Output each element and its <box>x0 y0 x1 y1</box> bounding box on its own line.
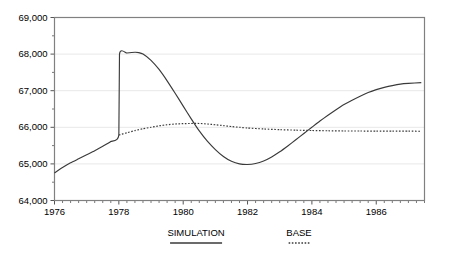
y-axis-label: 65,000 <box>18 158 47 169</box>
data-series <box>55 51 422 173</box>
x-axis-label: 1978 <box>108 206 129 217</box>
legend-label-simulation: SIMULATION <box>167 227 224 238</box>
y-axis-tick-labels: 64,00065,00066,00067,00068,00069,000 <box>18 12 47 206</box>
legend-label-base: BASE <box>286 227 311 238</box>
y-axis-label: 69,000 <box>18 12 47 23</box>
x-axis-label: 1984 <box>301 206 322 217</box>
x-axis-tick-labels: 197619781980198219841986 <box>44 206 387 217</box>
x-axis-label: 1986 <box>366 206 387 217</box>
chart-legend: SIMULATIONBASE <box>167 227 311 243</box>
x-axis-label: 1982 <box>237 206 258 217</box>
y-axis-label: 67,000 <box>18 85 47 96</box>
gridlines <box>55 54 425 164</box>
x-axis-label: 1980 <box>173 206 194 217</box>
chart-container: 64,00065,00066,00067,00068,00069,000 197… <box>0 0 450 257</box>
series-line-base <box>119 123 421 135</box>
series-line-simulation <box>55 51 422 173</box>
x-axis-label: 1976 <box>44 206 65 217</box>
x-axis-ticks <box>55 201 425 205</box>
line-chart: 64,00065,00066,00067,00068,00069,000 197… <box>0 0 450 257</box>
plot-frame <box>55 18 425 201</box>
y-axis-label: 68,000 <box>18 48 47 59</box>
y-axis-label: 64,000 <box>18 195 47 206</box>
y-axis-label: 66,000 <box>18 121 47 132</box>
